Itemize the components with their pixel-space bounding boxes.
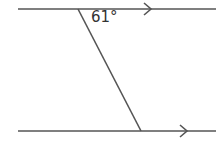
- transversal-line: [78, 9, 141, 131]
- diagram: 61°: [0, 0, 216, 141]
- angle-label: 61°: [91, 10, 118, 25]
